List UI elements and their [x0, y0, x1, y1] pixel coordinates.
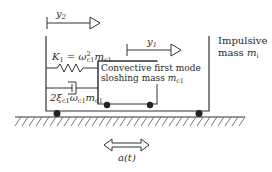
excitation-label: a(t)	[118, 152, 136, 163]
convective-mass-wheel-right	[147, 102, 153, 108]
y2-label: y2	[55, 8, 66, 21]
tank-wheel-right	[196, 110, 203, 117]
y1-label: y1	[146, 36, 157, 49]
spring-stiffness-label: K1 = ω2c1mc1	[51, 50, 112, 64]
convective-mass-wheel-left	[104, 102, 110, 108]
tank-sloshing-model-diagram: y2 y1 K1 = ω2c1mc1 2ξc1ωc1mc1 Convective…	[0, 0, 272, 172]
impulsive-mass-label-line2: mass mi	[218, 47, 258, 60]
convective-mass-label-line1: Convective first mode	[101, 63, 201, 73]
ground-excitation-arrow-icon	[104, 139, 149, 151]
ground-hatching	[15, 117, 245, 126]
damping-coefficient-label: 2ξc1ωc1mc1	[49, 92, 103, 105]
impulsive-mass-label-line1: Impulsive	[218, 35, 267, 46]
tank-wheel-left	[54, 110, 61, 117]
spring-icon	[46, 64, 98, 72]
y2-displacement-arrow	[47, 17, 100, 29]
